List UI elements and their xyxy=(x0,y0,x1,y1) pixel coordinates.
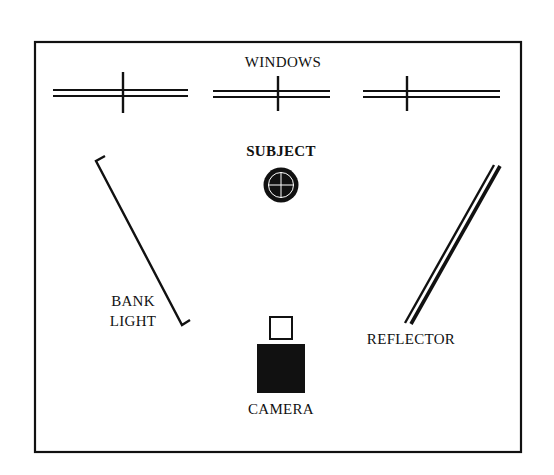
camera-body xyxy=(257,344,305,393)
camera-label: CAMERA xyxy=(248,401,314,417)
camera-icon xyxy=(257,317,305,393)
window-1 xyxy=(53,72,188,113)
bank-light-label-line1: BANK xyxy=(111,293,155,309)
window-3 xyxy=(363,76,500,111)
lighting-diagram: WINDOWS SUBJECT BANK LIGHT REFLECTOR xyxy=(0,0,554,475)
reflector-icon xyxy=(405,165,500,324)
bank-light-label-line2: LIGHT xyxy=(110,313,157,329)
window-2 xyxy=(213,76,330,111)
windows-label: WINDOWS xyxy=(245,54,321,70)
camera-viewfinder xyxy=(270,317,292,339)
subject-label: SUBJECT xyxy=(246,143,316,159)
subject-icon xyxy=(264,168,299,203)
reflector-label: REFLECTOR xyxy=(367,331,455,347)
